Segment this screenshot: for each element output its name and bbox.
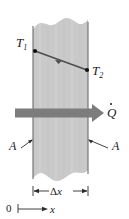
label-x-axis: x — [50, 204, 55, 215]
label-area-left: A — [9, 140, 16, 152]
label-heat-rate: Q — [107, 106, 116, 119]
label-thickness: Δx — [50, 186, 62, 197]
heat-conduction-diagram: T1 T2 Q A A Δx 0 x — [0, 0, 129, 219]
t2-point-marker — [85, 68, 89, 72]
x-axis — [18, 204, 48, 213]
t1-point-marker — [33, 49, 37, 53]
area-leader-left — [21, 139, 33, 148]
label-origin: 0 — [6, 203, 12, 214]
qdot-overdot-icon — [110, 103, 112, 105]
label-temperature-1: T1 — [16, 36, 27, 49]
label-temperature-2: T2 — [92, 64, 103, 77]
area-leader-right — [88, 139, 108, 148]
label-area-right: A — [112, 140, 119, 152]
